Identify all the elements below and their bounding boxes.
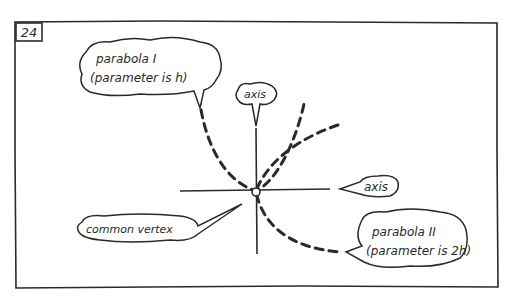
parabola-2-label-line2: (parameter is 2h): [366, 244, 471, 258]
common-vertex-label: common vertex: [86, 223, 173, 236]
callout-parabola-2: parabola II (parameter is 2h): [346, 209, 471, 267]
parabola-1-label-line2: (parameter is h): [90, 71, 188, 85]
callout-parabola-1: parabola I (parameter is h): [80, 37, 222, 108]
common-vertex-marker: [252, 188, 260, 196]
parabola-2-label-line1: parabola II: [371, 225, 436, 239]
callout-vertical-axis: axis: [236, 82, 277, 126]
callout-common-vertex: common vertex: [78, 204, 243, 242]
parabola-1-label-line1: parabola I: [95, 52, 157, 66]
diagram-canvas: 24 parabola I (parameter is h) axis axis…: [0, 0, 509, 302]
horizontal-axis-label: axis: [364, 180, 388, 194]
figure-number: 24: [21, 25, 38, 40]
vertical-axis-label: axis: [244, 88, 266, 101]
parabola-1-curve: [199, 96, 304, 191]
callout-horizontal-axis: axis: [340, 176, 398, 197]
figure-number-box: 24: [16, 23, 42, 41]
